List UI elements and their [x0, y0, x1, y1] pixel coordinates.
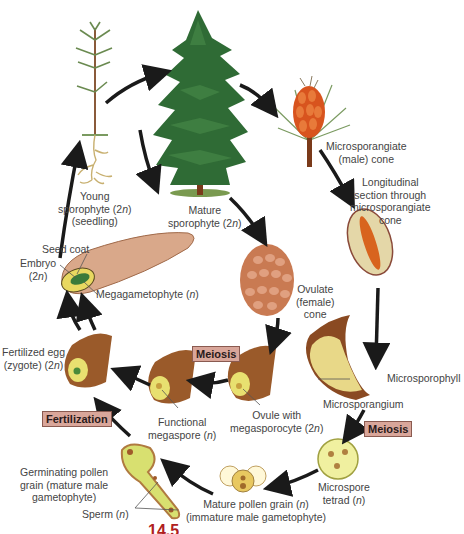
- label-line: Ovule with: [230, 409, 323, 422]
- label-line: Microspore: [318, 481, 370, 494]
- germinating-pollen-label: Germinating pollen grain (mature male ga…: [20, 466, 108, 504]
- label-line: (zygote) (2n): [2, 359, 65, 372]
- label-line: Functional: [148, 416, 216, 429]
- ovule-megasporocyte-label: Ovule with megasporocyte (2n): [230, 409, 323, 434]
- megagametophyte-label: Megagametophyte (n): [96, 288, 199, 301]
- functional-megaspore-label: Functional megaspore (n): [148, 416, 216, 441]
- life-cycle-illustration: [0, 0, 464, 534]
- ovulate-cone-icon: [240, 244, 294, 316]
- label-line: (immature male gametophyte): [186, 511, 326, 524]
- label-line: Ovulate: [296, 283, 335, 296]
- label-line: Fertilized egg: [2, 346, 65, 359]
- label-line: (2n): [20, 270, 56, 283]
- label-line: sporophyte (2n): [168, 217, 242, 230]
- label-line: sporophyte (2n): [58, 203, 132, 216]
- mature-sporophyte-label: Mature sporophyte (2n): [168, 204, 242, 229]
- label-line: cone: [350, 214, 431, 227]
- microsporangium-label: Microsporangium: [323, 398, 404, 411]
- figure-number: 14.5: [148, 522, 179, 534]
- longitudinal-section-label: Longitudinal section through microsporan…: [350, 176, 431, 226]
- microspore-tetrad-icon: [318, 439, 358, 479]
- label-line: megaspore (n): [148, 429, 216, 442]
- seed-coat-label: Seed coat: [42, 243, 89, 256]
- label-line: grain (mature male: [20, 479, 108, 492]
- germinating-pollen-icon: [122, 444, 179, 518]
- microsporophyll-icon: [306, 315, 370, 400]
- label-line: microsporangiate: [350, 201, 431, 214]
- label-line: (seedling): [58, 215, 132, 228]
- meiosis-male-tag: Meiosis: [364, 421, 412, 437]
- label-line: (male) cone: [326, 153, 407, 166]
- functional-megaspore-icon: [148, 350, 196, 404]
- meiosis-female-tag: Meiosis: [192, 346, 240, 362]
- fertilization-tag: Fertilization: [42, 411, 112, 427]
- ovulate-cone-label: Ovulate (female) cone: [296, 283, 335, 321]
- label-line: Germinating pollen: [20, 466, 108, 479]
- fertilized-egg-icon: [64, 333, 112, 387]
- mature-tree-icon: [153, 10, 248, 197]
- label-line: gametophyte): [20, 491, 108, 504]
- mature-pollen-grain-label: Mature pollen grain (n) (immature male g…: [186, 498, 326, 523]
- sperm-label: Sperm (n): [82, 508, 129, 521]
- label-line: section through: [350, 189, 431, 202]
- fertilized-egg-label: Fertilized egg (zygote) (2n): [2, 346, 65, 371]
- microsporophyll-label: Microsporophyll: [387, 372, 461, 385]
- label-line: Mature: [168, 204, 242, 217]
- label-line: Embryo: [20, 257, 56, 270]
- label-line: Young: [58, 190, 132, 203]
- microsporangiate-cone-label: Microsporangiate (male) cone: [326, 140, 407, 165]
- label-line: megasporocyte (2n): [230, 422, 323, 435]
- label-line: Longitudinal: [350, 176, 431, 189]
- label-line: Mature pollen grain (n): [186, 498, 326, 511]
- embryo-label: Embryo (2n): [20, 257, 56, 282]
- label-line: Microsporangiate: [326, 140, 407, 153]
- pollen-grain-icon: [220, 466, 266, 492]
- young-sporophyte-label: Young sporophyte (2n) (seedling): [58, 190, 132, 228]
- label-line: (female): [296, 296, 335, 309]
- label-line: cone: [296, 308, 335, 321]
